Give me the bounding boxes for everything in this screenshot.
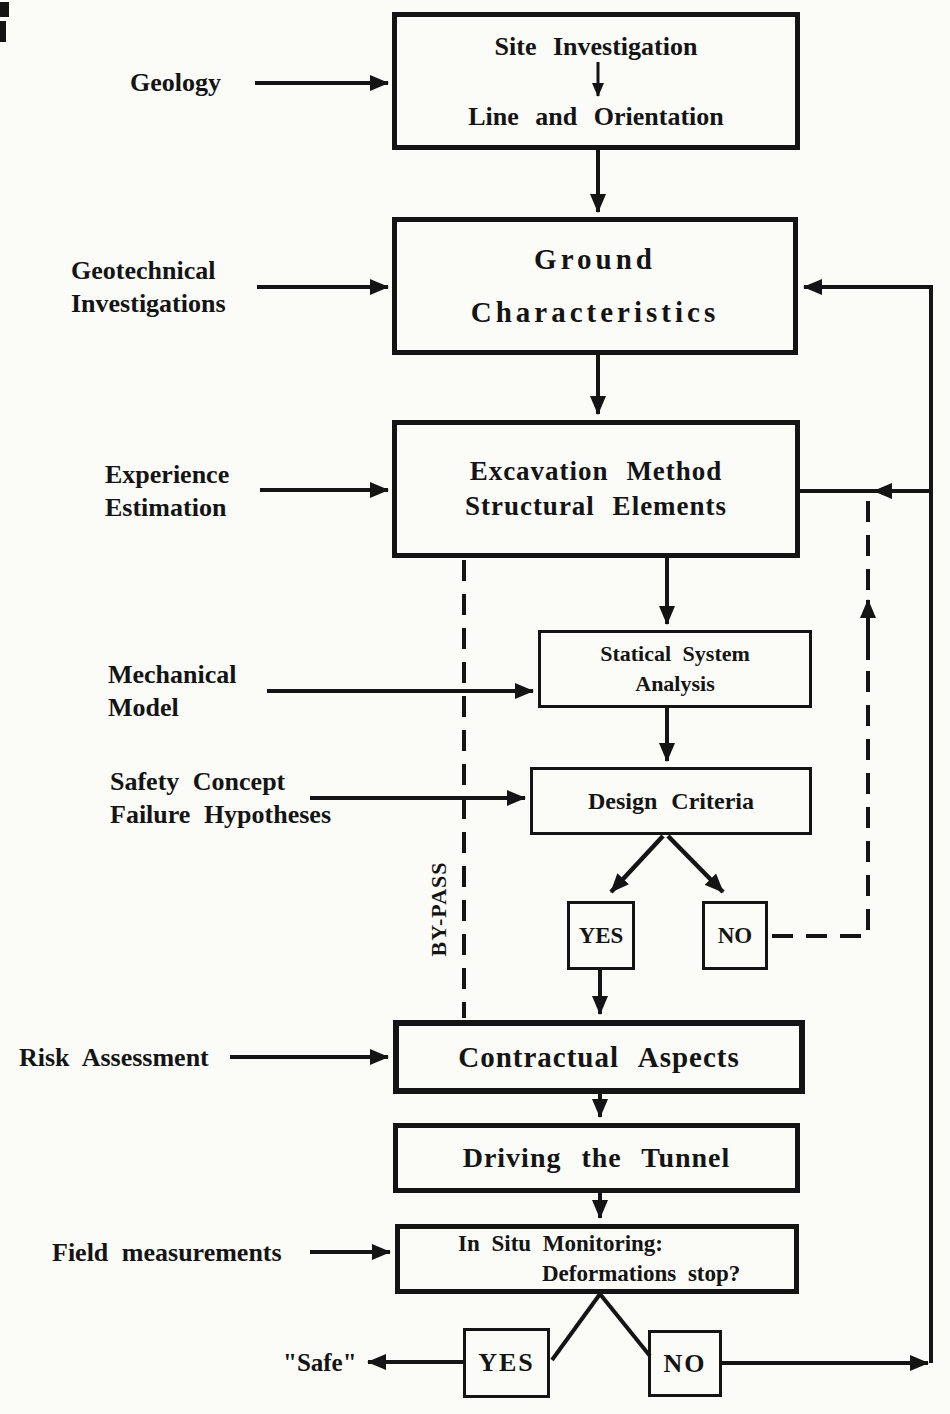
box-ground-characteristics: Ground Characteristics bbox=[392, 217, 798, 355]
box-monitoring-line2: Deformations stop? bbox=[542, 1259, 740, 1289]
label-mechanical-line2: Model bbox=[108, 691, 237, 724]
arrow-design-to-yes bbox=[611, 836, 663, 892]
box-ground-line2: Characteristics bbox=[471, 296, 719, 329]
label-field-measurements: Field measurements bbox=[52, 1236, 282, 1269]
box-monitoring-line1: In Situ Monitoring: bbox=[458, 1229, 663, 1259]
label-risk-line1: Risk Assessment bbox=[19, 1041, 209, 1074]
label-safety-concept: Safety Concept Failure Hypotheses bbox=[110, 765, 331, 831]
label-mechanical-line1: Mechanical bbox=[108, 658, 237, 691]
label-experience-line2: Estimation bbox=[105, 491, 229, 524]
box-statical-system-analysis: Statical System Analysis bbox=[538, 630, 812, 708]
box-statical-line1: Statical System bbox=[600, 639, 750, 669]
label-geotechnical-line1: Geotechnical bbox=[71, 254, 226, 287]
line-monitoring-to-yes bbox=[552, 1294, 600, 1360]
flowchart-page: Site Investigation Line and Orientation … bbox=[0, 0, 950, 1414]
line-monitoring-to-no bbox=[600, 1294, 650, 1356]
box-driving-label: Driving the Tunnel bbox=[463, 1142, 731, 1174]
label-safe-line1: "Safe" bbox=[283, 1346, 357, 1379]
box-excavation-line1: Excavation Method bbox=[470, 456, 723, 487]
line-design-no-feedback-dashed bbox=[772, 494, 868, 936]
label-by-pass: BY-PASS bbox=[426, 849, 454, 969]
box-monitoring-no: NO bbox=[648, 1330, 722, 1397]
label-safe: "Safe" bbox=[283, 1346, 357, 1379]
label-safety-line1: Safety Concept bbox=[110, 765, 331, 798]
label-geotechnical-investigations: Geotechnical Investigations bbox=[71, 254, 226, 320]
box-in-situ-monitoring: In Situ Monitoring: Deformations stop? bbox=[395, 1224, 799, 1294]
arrow-design-to-no bbox=[668, 836, 723, 892]
box-site-investigation: Site Investigation Line and Orientation bbox=[392, 12, 800, 150]
label-geology-line1: Geology bbox=[130, 66, 221, 99]
box-design-criteria-label: Design Criteria bbox=[588, 788, 754, 815]
label-experience-estimation: Experience Estimation bbox=[105, 458, 229, 524]
box-contractual-aspects: Contractual Aspects bbox=[393, 1020, 805, 1094]
box-contractual-label: Contractual Aspects bbox=[458, 1041, 740, 1074]
label-safety-line2: Failure Hypotheses bbox=[110, 798, 331, 831]
label-risk-assessment: Risk Assessment bbox=[19, 1041, 209, 1074]
box-design-yes-label: YES bbox=[579, 923, 624, 949]
box-site-investigation-line2: Line and Orientation bbox=[468, 102, 723, 132]
label-experience-line1: Experience bbox=[105, 458, 229, 491]
label-mechanical-model: Mechanical Model bbox=[108, 658, 237, 724]
box-design-criteria: Design Criteria bbox=[530, 767, 812, 835]
box-excavation-method: Excavation Method Structural Elements bbox=[392, 420, 800, 558]
box-ground-line1: Ground bbox=[534, 243, 656, 276]
label-geotechnical-line2: Investigations bbox=[71, 287, 226, 320]
box-excavation-line2: Structural Elements bbox=[465, 491, 727, 522]
scan-artifact bbox=[0, 21, 6, 42]
box-monitoring-yes-label: YES bbox=[478, 1348, 535, 1378]
box-monitoring-yes: YES bbox=[463, 1328, 550, 1398]
box-monitoring-no-label: NO bbox=[664, 1349, 707, 1379]
box-design-no-label: NO bbox=[718, 923, 753, 949]
scan-artifact bbox=[0, 2, 9, 17]
label-geology: Geology bbox=[130, 66, 221, 99]
box-design-no: NO bbox=[702, 901, 768, 970]
box-site-investigation-line1: Site Investigation bbox=[495, 32, 698, 62]
box-driving-the-tunnel: Driving the Tunnel bbox=[393, 1123, 800, 1193]
box-design-yes: YES bbox=[567, 901, 635, 970]
box-statical-line2: Analysis bbox=[635, 669, 714, 699]
label-field-line1: Field measurements bbox=[52, 1236, 282, 1269]
